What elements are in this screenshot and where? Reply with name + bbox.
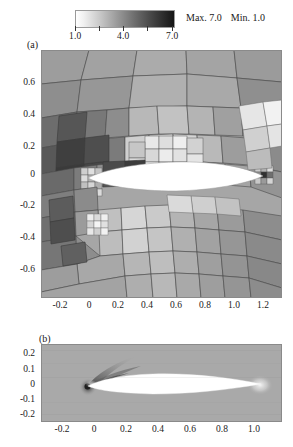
panel-b-contour-plot: [41, 344, 282, 422]
panel-b-xtick-1: 0: [92, 424, 97, 434]
panel-b-xtick-6: 1.0: [248, 424, 260, 434]
panel-b-y-tick-labels: 0.2 0.1 0 -0.1 -0.2: [0, 344, 38, 422]
panel-a-xtick-3: 0.4: [141, 300, 153, 310]
panel-a-xtick-0: -0.2: [52, 300, 67, 310]
panel-b-ytick-0: 0.2: [23, 348, 35, 358]
panel-b-x-tick-labels: -0.2 0 0.2 0.4 0.6 0.8 1.0: [41, 424, 282, 436]
panel-b-svg: [41, 344, 282, 422]
panel-b-xtick-0: -0.2: [54, 424, 69, 434]
panel-a-svg: [41, 50, 282, 298]
panel-b-xtick-2: 0.2: [120, 424, 132, 434]
panel-a-ytick-4: -0.2: [20, 200, 35, 210]
panel-a-xtick-6: 1.0: [228, 300, 240, 310]
panel-a-ytick-3: 0: [30, 169, 35, 179]
panel-b-ytick-3: -0.1: [20, 394, 35, 404]
panel-a-xtick-1: 0: [87, 300, 92, 310]
panel-a-mesh-plot: [41, 50, 282, 298]
colorbar-tick-label-1: 4.0: [117, 31, 129, 41]
max-min-annotation: Max. 7.0Min. 1.0: [186, 12, 265, 23]
panel-a-xtick-5: 0.8: [199, 300, 211, 310]
panel-b-xtick-5: 0.8: [216, 424, 228, 434]
panel-a-x-tick-labels: -0.2 0 0.2 0.4 0.6 0.8 1.0 1.2: [41, 300, 282, 312]
panel-b-ytick-1: 0.1: [23, 364, 35, 374]
colorbar-tick-label-2: 7.0: [166, 31, 178, 41]
max-value-label: Max. 7.0: [186, 12, 222, 23]
panel-a-ytick-2: 0.2: [23, 141, 35, 151]
panel-a-y-tick-labels: 0.6 0.4 0.2 0 -0.2 -0.4 -0.6: [0, 50, 38, 298]
panel-a-xtick-2: 0.2: [112, 300, 124, 310]
panel-b-ytick-4: -0.2: [20, 409, 35, 419]
panel-b-ytick-2: 0: [30, 379, 35, 389]
panel-b-xtick-3: 0.4: [152, 424, 164, 434]
colorbar: [75, 10, 173, 26]
colorbar-tick-label-0: 1.0: [69, 31, 81, 41]
panel-a-xtick-4: 0.6: [170, 300, 182, 310]
panel-a-ytick-0: 0.6: [23, 77, 35, 87]
panel-a-ytick-5: -0.4: [20, 232, 35, 242]
panel-a-ytick-6: -0.6: [20, 264, 35, 274]
panel-a-label: (a): [27, 39, 38, 50]
panel-b-label: (b): [39, 333, 51, 344]
min-value-label: Min. 1.0: [231, 12, 265, 23]
panel-b-xtick-4: 0.6: [184, 424, 196, 434]
figure-root: 1.0 4.0 7.0 Max. 7.0Min. 1.0 (a): [0, 0, 293, 447]
colorbar-tick-labels: 1.0 4.0 7.0: [45, 31, 205, 43]
panel-a-xtick-7: 1.2: [257, 300, 269, 310]
panel-a-ytick-1: 0.4: [23, 109, 35, 119]
